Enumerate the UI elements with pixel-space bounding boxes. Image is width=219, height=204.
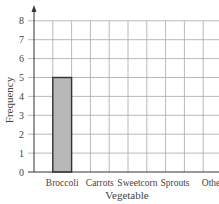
- x-category-labels: BroccoliCarrotsSweetcornSproutsOther: [46, 178, 219, 188]
- y-axis-arrow-icon: [32, 5, 37, 12]
- y-tick-label: 3: [19, 110, 24, 121]
- x-category-label: Sprouts: [160, 178, 189, 188]
- x-category-label: Broccoli: [46, 178, 79, 188]
- y-tick-label: 4: [19, 91, 24, 102]
- y-axis-title: Frequency: [3, 76, 15, 123]
- y-tick-label: 0: [19, 167, 24, 178]
- x-category-label: Carrots: [86, 178, 114, 188]
- x-category-label: Other: [202, 178, 219, 188]
- chart-bars: [53, 78, 72, 173]
- y-tick-label: 5: [19, 72, 24, 83]
- x-axis-title: Vegetable: [105, 189, 148, 201]
- y-tick-label: 2: [19, 129, 24, 140]
- bar-broccoli: [53, 78, 72, 173]
- x-category-label: Sweetcorn: [117, 178, 157, 188]
- bar-chart: 012345678 BroccoliCarrotsSweetcornSprout…: [0, 0, 219, 204]
- y-tick-labels: 012345678: [19, 15, 24, 177]
- y-tick-label: 8: [19, 15, 24, 26]
- y-tick-label: 6: [19, 53, 24, 64]
- y-tick-label: 1: [19, 148, 24, 159]
- y-tick-label: 7: [19, 34, 24, 45]
